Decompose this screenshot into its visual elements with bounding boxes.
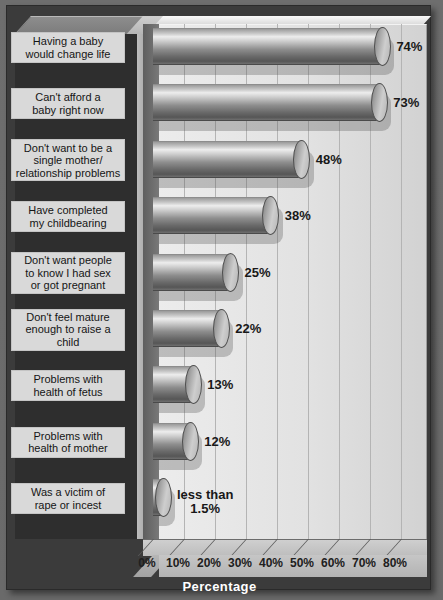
bar-end-cap <box>371 83 388 122</box>
bar-end-cap <box>185 365 202 404</box>
category-label: Don't feel matureenough to raise achild <box>11 309 125 351</box>
category-label: Can't afford ababy right now <box>11 88 125 119</box>
category-label: Problems withhealth of fetus <box>11 370 125 401</box>
bar-value-label: 48% <box>316 152 342 167</box>
x-tick-label: 60% <box>316 556 350 570</box>
bar-value-label: 12% <box>204 434 230 449</box>
bar-body <box>153 310 221 347</box>
bar-value-label: 38% <box>285 208 311 223</box>
x-tick-label: 20% <box>192 556 226 570</box>
x-tick-label: 70% <box>347 556 381 570</box>
x-tick-label: 30% <box>223 556 257 570</box>
bar-end-cap <box>182 422 199 461</box>
x-tick-label: 80% <box>378 556 412 570</box>
bar-body <box>153 254 231 291</box>
category-label: Don't want peopleto know I had sexor got… <box>11 252 125 294</box>
bar-value-label: 74% <box>396 39 422 54</box>
bar-end-cap <box>374 27 391 66</box>
bar-value-label: 13% <box>207 377 233 392</box>
bar-cylinder[interactable] <box>153 479 163 516</box>
x-tick-label: 0% <box>130 556 164 570</box>
bar-body <box>153 28 382 65</box>
bar-value-label: 22% <box>235 321 261 336</box>
bar-value-label: less than1.5% <box>177 488 233 516</box>
bar-cylinder[interactable] <box>153 366 193 403</box>
category-label: Problems withhealth of mother <box>11 427 125 458</box>
x-tick-label: 50% <box>285 556 319 570</box>
chart-frame: 74%73%48%38%25%22%13%12%less than1.5% Ha… <box>6 5 431 590</box>
bar-cylinder[interactable] <box>153 254 231 291</box>
bar-cylinder[interactable] <box>153 141 302 178</box>
category-label: Have completedmy childbearing <box>11 201 125 232</box>
category-label: Don't want to be asingle mother/relation… <box>11 139 125 181</box>
bar-cylinder[interactable] <box>153 84 379 121</box>
bar-body <box>153 141 302 178</box>
x-tick-label: 40% <box>254 556 288 570</box>
bar-value-label: 25% <box>245 265 271 280</box>
bar-cylinder[interactable] <box>153 197 271 234</box>
category-label: Was a victim ofrape or incest <box>11 483 125 514</box>
category-label: Having a babywould change life <box>11 32 125 63</box>
bar-cylinder[interactable] <box>153 28 382 65</box>
bar-body <box>153 84 379 121</box>
bar-cylinder[interactable] <box>153 423 190 460</box>
bar-end-cap <box>213 309 230 348</box>
bar-end-cap <box>155 478 172 517</box>
plot-floor <box>143 539 427 556</box>
bar-value-label: 73% <box>393 95 419 110</box>
bar-body <box>153 197 271 234</box>
x-axis-title: Percentage <box>7 579 432 594</box>
bar-cylinder[interactable] <box>153 310 221 347</box>
chart-screenshot: 74%73%48%38%25%22%13%12%less than1.5% Ha… <box>0 0 443 600</box>
x-tick-label: 10% <box>161 556 195 570</box>
bar-end-cap <box>222 253 239 292</box>
